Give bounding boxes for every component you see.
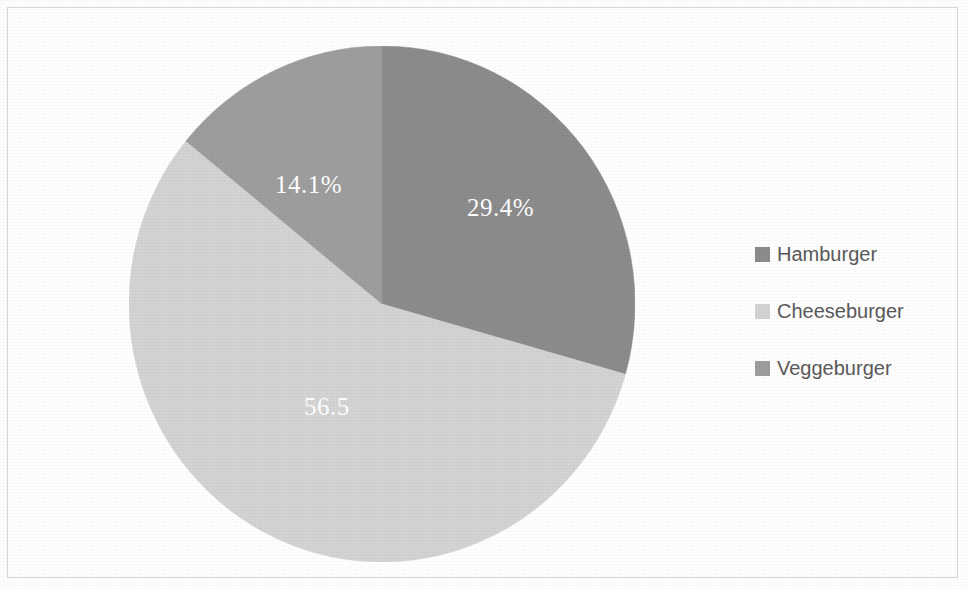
legend-item-label: Hamburger bbox=[777, 243, 877, 266]
legend-item-hamburger[interactable]: Hamburger bbox=[755, 226, 955, 283]
legend-item-label: Veggeburger bbox=[777, 357, 892, 380]
pie-chart[interactable] bbox=[129, 46, 635, 562]
legend-item-veggeburger[interactable]: Veggeburger bbox=[755, 340, 955, 397]
slice-data-label-cheeseburger: 56.5 bbox=[304, 393, 350, 421]
chart-frame: 29.4% 56.5 14.1% HamburgerCheeseburgerVe… bbox=[7, 7, 958, 578]
legend-item-cheeseburger[interactable]: Cheeseburger bbox=[755, 283, 955, 340]
pie-slice-group bbox=[129, 46, 635, 562]
slice-data-label-hamburger: 29.4% bbox=[467, 194, 534, 222]
legend-swatch-icon bbox=[755, 361, 770, 376]
pie-svg bbox=[129, 46, 635, 562]
legend-swatch-icon bbox=[755, 304, 770, 319]
legend-swatch-icon bbox=[755, 247, 770, 262]
legend-item-label: Cheeseburger bbox=[777, 300, 904, 323]
plot-area: 29.4% 56.5 14.1% bbox=[8, 8, 728, 579]
chart-legend: HamburgerCheeseburgerVeggeburger bbox=[755, 226, 955, 397]
slice-data-label-veggeburger: 14.1% bbox=[275, 171, 342, 199]
